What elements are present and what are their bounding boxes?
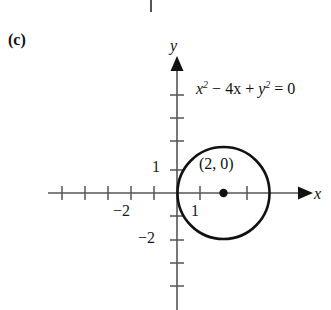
y-axis-arrowhead [171,56,184,71]
x-tick-label-neg2: −2 [113,203,130,219]
equation-middle: − 4x + [208,80,258,97]
figure-root: (c) [0,0,331,310]
y-axis-label: y [170,38,177,54]
coordinate-plot [0,0,331,310]
y-tick-label-1: 1 [152,159,160,175]
equation-annotation: x2 − 4x + y2 = 0 [196,81,295,97]
x-tick-label-1: 1 [191,203,199,219]
center-point-label: (2, 0) [199,156,234,172]
x-axis-arrowhead [298,187,313,200]
equation-equals-zero: = 0 [270,80,295,97]
center-point-marker [219,189,227,197]
y-tick-label-neg2: −2 [138,230,155,246]
x-axis-label: x [314,186,321,202]
